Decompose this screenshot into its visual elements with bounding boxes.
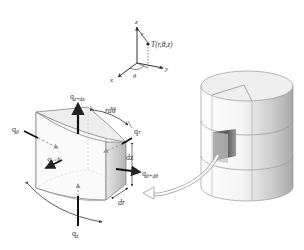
arc-dimension-label: rdθ	[105, 106, 116, 115]
connector-arrowhead	[143, 187, 154, 199]
diagram-canvas: z y x r θ T(r,θ,z) qz+dz qθ qr+dr qr	[0, 0, 304, 250]
height-dimension-label: dz	[126, 153, 134, 162]
point-label: T(r,θ,z)	[151, 40, 173, 49]
cylinder-top	[201, 71, 293, 101]
q-z-label: qz	[72, 229, 79, 239]
differential-element: qz+dz qθ qr+dr qr qθ+dθ qz rdθ dz dr	[12, 92, 158, 239]
radial-dimension-label: dr	[118, 198, 126, 207]
r-label: r	[141, 30, 144, 37]
q-theta-label: qθ	[12, 125, 19, 135]
point-marker	[146, 42, 149, 45]
q-z-dz-label: qz+dz	[70, 92, 85, 102]
cylinder	[201, 71, 293, 201]
y-axis-label: y	[164, 65, 169, 73]
z-axis-label: z	[134, 18, 138, 26]
x-axis-label: x	[109, 76, 114, 84]
q-theta-dtheta-label: qθ+dθ	[142, 169, 158, 179]
theta-label: θ	[133, 72, 137, 79]
q-r-label: qr	[134, 127, 142, 136]
y-axis	[137, 63, 163, 68]
coordinate-system: z y x r θ T(r,θ,z)	[109, 18, 173, 84]
